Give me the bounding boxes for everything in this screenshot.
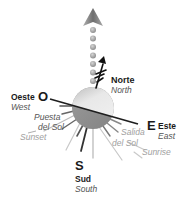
tree-icon <box>95 56 106 88</box>
east-letter: E <box>147 118 156 133</box>
east-label-es: Este <box>158 121 176 131</box>
west-label-es: Oeste <box>11 92 35 102</box>
west-letter: O <box>38 89 48 104</box>
south-label-en: South <box>75 184 97 194</box>
sunset-label-en: Sunset <box>20 132 47 142</box>
south-letter: S <box>75 158 84 173</box>
compass-diagram: Norte North Oeste O West Puesta del Sol … <box>0 0 188 203</box>
sunrise-label-es-2: del Sol <box>112 138 139 148</box>
sunrise-label-es-1: Salida <box>121 127 145 137</box>
north-label-en: North <box>111 85 132 95</box>
east-label-en: East <box>158 131 176 141</box>
west-label-en: West <box>11 102 31 112</box>
sunset-label-es-1: Puesta <box>34 112 61 122</box>
north-label-es: Norte <box>111 75 135 85</box>
north-dotted-line <box>90 27 96 84</box>
north-arrow-icon <box>83 8 103 26</box>
sunset-label-es-2: del Sol <box>38 122 65 132</box>
south-label-es: Sud <box>75 174 91 184</box>
sunrise-label-en: Sunrise <box>142 147 171 157</box>
